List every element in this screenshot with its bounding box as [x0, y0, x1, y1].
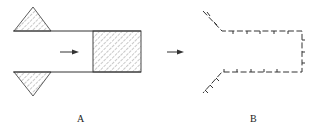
- panel-a: [13, 7, 141, 96]
- diagram-canvas: [0, 0, 314, 134]
- panel-b-ticks: [205, 12, 305, 93]
- arrow-icon: [167, 50, 184, 55]
- bottom-triangle-block: [14, 72, 51, 96]
- arrow-icon: [60, 50, 79, 55]
- panel-b-contour: [203, 11, 302, 93]
- top-triangle-block: [14, 7, 51, 31]
- panel-label-b: B: [250, 113, 257, 124]
- right-hatched-block: [93, 31, 141, 72]
- panel-label-a: A: [77, 113, 84, 124]
